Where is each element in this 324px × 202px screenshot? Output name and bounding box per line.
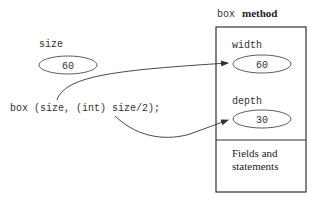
param-width-value: 60 (256, 60, 268, 71)
variable-size-label: size (39, 39, 63, 50)
parameter-passing-diagram: box method width 60 depth 30 Fields and … (0, 0, 324, 202)
method-title: box method (217, 3, 277, 20)
param-depth-label: depth (232, 96, 262, 107)
param-width-label: width (232, 40, 262, 51)
method-body-label-line2: statements (232, 160, 278, 172)
method-body-label-line1: Fields and (232, 147, 278, 159)
variable-size-value: 60 (62, 61, 74, 72)
arrow-size-to-width (57, 63, 228, 100)
param-depth-value: 30 (256, 115, 268, 126)
arrow-half-size-to-depth (115, 116, 228, 137)
call-statement: box (size, (int) size/2); (10, 103, 160, 114)
